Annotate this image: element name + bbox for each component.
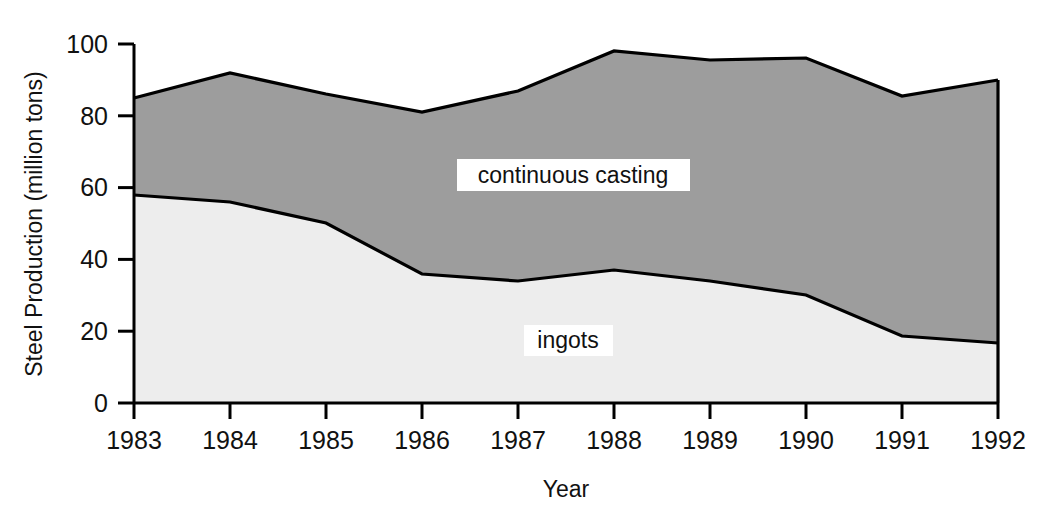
- x-tick-label-1984: 1984: [202, 426, 258, 454]
- x-tick-label-1990: 1990: [778, 426, 834, 454]
- x-tick-label-1987: 1987: [490, 426, 546, 454]
- x-tick-label-1989: 1989: [682, 426, 738, 454]
- annotation-ingots-label: ingots: [537, 327, 598, 353]
- x-tick-label-1988: 1988: [586, 426, 642, 454]
- y-tick-label-20: 20: [80, 317, 108, 345]
- y-axis-ticks: [118, 44, 134, 403]
- x-axis-ticks: [134, 403, 998, 419]
- x-tick-label-1991: 1991: [874, 426, 930, 454]
- y-tick-label-60: 60: [80, 173, 108, 201]
- annotation-continuous-casting-label: continuous casting: [478, 162, 669, 188]
- annotation-continuous-casting: continuous casting: [457, 159, 690, 191]
- y-axis-title: Steel Production (million tons): [21, 71, 47, 377]
- x-tick-label-1992: 1992: [970, 426, 1026, 454]
- x-tick-label-1983: 1983: [106, 426, 162, 454]
- x-tick-label-1986: 1986: [394, 426, 450, 454]
- y-tick-label-100: 100: [66, 30, 108, 58]
- annotation-ingots: ingots: [524, 325, 613, 356]
- x-tick-label-1985: 1985: [298, 426, 354, 454]
- y-tick-label-0: 0: [94, 389, 108, 417]
- y-tick-label-80: 80: [80, 102, 108, 130]
- y-tick-label-40: 40: [80, 245, 108, 273]
- x-axis-title: Year: [543, 476, 590, 502]
- chart-container: 0 20 40 60 80 100 1983 1984 1985 1986 19…: [0, 0, 1044, 513]
- stacked-area-chart: 0 20 40 60 80 100 1983 1984 1985 1986 19…: [0, 0, 1044, 513]
